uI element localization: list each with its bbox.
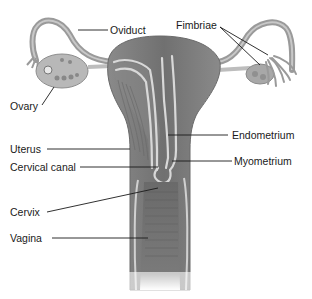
leader-fimbriae-2 [220, 27, 268, 55]
label-oviduct: Oviduct [110, 24, 146, 36]
label-myometrium: Myometrium [234, 155, 292, 167]
label-cervix: Cervix [10, 206, 40, 218]
label-endometrium: Endometrium [232, 129, 294, 141]
leader-ovary [42, 87, 54, 105]
label-vagina: Vagina [10, 232, 42, 244]
label-ovary: Ovary [10, 100, 38, 112]
label-cervical-canal: Cervical canal [10, 161, 76, 173]
label-uterus: Uterus [10, 143, 41, 155]
anatomy-illustration [0, 0, 312, 299]
label-fimbriae: Fimbriae [176, 19, 217, 31]
right-oviduct [218, 22, 292, 70]
right-ovary [218, 64, 274, 84]
reproductive-anatomy-diagram: Oviduct Fimbriae Ovary Uterus Endometriu… [0, 0, 312, 299]
